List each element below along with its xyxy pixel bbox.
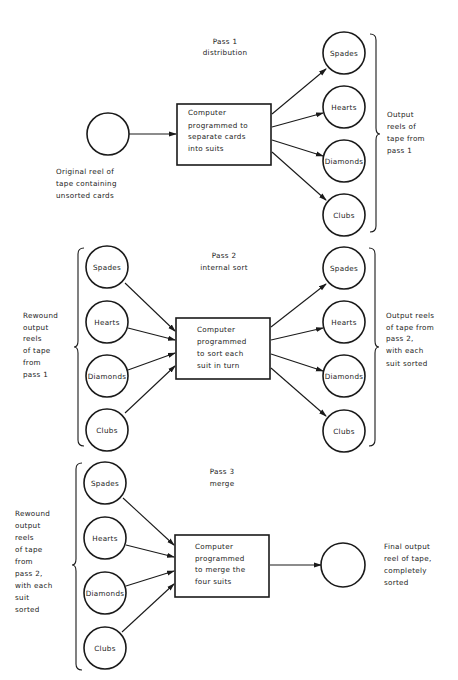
arrow-hearts-to-merge [126,545,174,557]
pass-3-input-label-4: of tape [15,545,43,554]
pass-2-output-clubs: Clubs [323,410,365,452]
pass-2-box-line-3: to sort each [197,349,244,358]
arrow-spades-to-computer [125,283,175,331]
svg-text:Hearts: Hearts [331,318,357,327]
svg-text:Hearts: Hearts [92,534,118,543]
svg-text:Clubs: Clubs [333,211,354,220]
pass-2-output-brace [369,248,379,446]
pass-3-input-label-9: sorted [15,605,40,614]
arrow-to-clubs [272,152,326,200]
arrow-to-hearts [272,113,323,127]
pass-2-box-line-4: suit in turn [197,361,240,370]
original-reel-label-1: Original reel of [56,167,114,176]
arrow-to-spades [272,69,326,114]
svg-text:Diamonds: Diamonds [86,589,125,598]
pass-2-output-hearts: Hearts [323,301,365,343]
pass-1-output-label-3: tape from [387,134,425,143]
original-reel-label-2: tape containing [56,179,117,188]
pass-3-input-hearts: Hearts [84,517,126,559]
pass-3-input-label-1: Rewound [15,509,50,518]
pass-3-input-diamonds: Diamonds [84,572,126,614]
final-output-reel [321,543,365,587]
arrow-computer-to-spades [271,284,326,327]
pass-2-input-diamonds: Diamonds [86,355,128,397]
pass-2-box-line-2: programmed [197,337,247,346]
final-label-1: Final output [384,542,430,551]
svg-text:Clubs: Clubs [333,427,354,436]
pass-3-box-line-3: to merge the [195,565,246,574]
original-reel [87,113,129,155]
pass-1-output-label-1: Output [387,110,414,119]
pass-2-input-label-3: reels [23,334,42,343]
svg-text:Diamonds: Diamonds [325,157,364,166]
svg-text:Clubs: Clubs [96,426,117,435]
pass-2-input-hearts: Hearts [86,301,128,343]
arrow-diamonds-to-merge [126,571,174,586]
pass-2-output-spades: Spades [323,247,365,289]
pass-3-title: Pass 3 [210,467,235,476]
pass-1-output-diamonds: Diamonds [323,140,365,182]
arrow-computer-to-clubs [271,368,326,416]
arrow-clubs-to-computer [125,366,175,413]
pass-2-subtitle: internal sort [200,263,248,272]
final-label-2: reel of tape, [384,554,432,563]
svg-text:Hearts: Hearts [94,318,120,327]
pass-2-input-label-4: of tape [23,346,51,355]
pass-2-input-label-2: output [23,323,49,332]
pass-2-output-label-4: with each [386,346,424,355]
pass-2-input-clubs: Clubs [86,409,128,451]
pass-3-input-brace [72,463,82,670]
pass-2-section: Pass 2 internal sort Rewound output reel… [23,246,434,452]
svg-text:Diamonds: Diamonds [325,372,364,381]
pass-1-box-line-3: separate cards [188,132,246,141]
pass-1-output-spades: Spades [323,32,365,74]
pass-2-box-line-1: Computer [197,325,235,334]
pass-1-output-hearts: Hearts [323,86,365,128]
final-label-3: completely [384,566,427,575]
svg-text:Clubs: Clubs [94,644,115,653]
original-reel-label-3: unsorted cards [56,191,114,200]
pass-1-output-clubs: Clubs [323,194,365,236]
pass-2-input-label-5: from [23,358,41,367]
pass-1-box-line-4: into suits [188,144,224,153]
svg-text:Spades: Spades [330,49,358,58]
pass-3-input-label-3: reels [15,533,34,542]
pass-2-input-spades: Spades [86,246,128,288]
pass-3-input-label-2: output [15,521,41,530]
svg-text:Hearts: Hearts [331,103,357,112]
pass-3-box-line-4: four suits [195,577,232,586]
pass-1-subtitle: distribution [203,48,248,57]
svg-text:Spades: Spades [330,264,358,273]
pass-2-output-label-3: pass 2, [386,334,414,343]
svg-text:Spades: Spades [93,263,121,272]
pass-1-output-label-4: pass 1 [387,146,412,155]
pass-2-output-label-5: suit sorted [386,359,428,368]
arrow-computer-to-hearts [271,328,323,340]
pass-3-input-clubs: Clubs [84,627,126,669]
pass-2-output-label-1: Output reels [386,311,434,320]
pass-2-title: Pass 2 [212,251,237,260]
pass-2-input-brace [74,248,84,446]
tape-sorting-diagram: Pass 1 distribution Original reel of tap… [0,0,458,680]
pass-2-output-label-2: of tape from [386,323,434,332]
pass-3-input-label-7: with each [15,581,53,590]
pass-1-title: Pass 1 [213,37,238,46]
pass-1-box-line-1: Computer [188,108,226,117]
svg-text:Diamonds: Diamonds [88,372,127,381]
pass-1-output-brace [370,34,380,232]
pass-1-output-label-2: reels of [387,122,416,131]
pass-3-box-line-2: programmed [195,554,245,563]
pass-3-input-label-5: from [15,557,33,566]
pass-3-box-line-1: Computer [195,542,233,551]
pass-2-output-diamonds: Diamonds [323,355,365,397]
arrow-diamonds-to-computer [128,353,175,370]
svg-text:Spades: Spades [91,479,119,488]
pass-3-input-label-6: pass 2, [15,569,43,578]
pass-3-input-spades: Spades [84,462,126,504]
arrow-to-diamonds [272,140,323,156]
pass-3-section: Pass 3 merge Rewound output reels of tap… [15,462,432,670]
pass-1-section: Pass 1 distribution Original reel of tap… [56,32,425,236]
arrow-hearts-to-computer [128,328,175,340]
pass-2-input-label-6: pass 1 [23,370,48,379]
pass-2-input-label-1: Rewound [23,311,58,320]
